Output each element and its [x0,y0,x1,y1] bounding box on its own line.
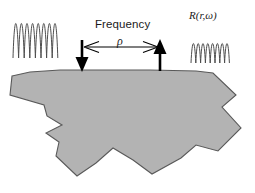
response-function-label: R(r,ω) [189,10,217,21]
response-waveform-icon [191,44,229,64]
up-arrow-icon [154,39,167,71]
figure-container: Frequency ρ R(r,ω) [0,0,255,193]
subsurface-body-polygon [10,70,241,176]
down-arrow-icon [76,40,89,72]
frequency-label: Frequency [95,19,150,31]
separation-symbol-label: ρ [117,35,123,47]
incident-waveform-icon [13,24,58,59]
